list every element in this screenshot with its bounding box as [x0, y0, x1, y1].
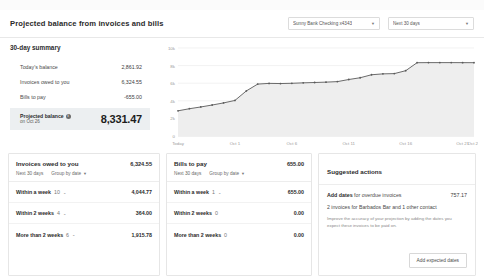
info-icon[interactable]: i [66, 114, 71, 119]
suggested-action-fine-print: Improve the accuracy of your projection … [327, 216, 457, 229]
bucket-row[interactable]: Within 2 weeks 4 ⌄ 364.00 [9, 203, 159, 224]
svg-text:Oct 11: Oct 11 [342, 141, 355, 146]
suggested-action-amount: 757.17 [451, 192, 468, 198]
card-header: Bills to pay 655.00 Next 30 days Group b… [167, 154, 311, 182]
caret-down-icon: ▼ [83, 172, 87, 176]
bucket-count: 6 [66, 232, 69, 238]
suggested-action-link[interactable]: Add dates [327, 192, 353, 198]
svg-text:0: 0 [173, 134, 176, 139]
card-subcontrols: Next 30 days Group by date ▼ [174, 171, 304, 176]
bucket-row: Within 2 weeks 0 0.00 [167, 203, 311, 224]
suggested-action-text: for overdue invoices [354, 192, 401, 198]
card-bills-to-pay: Bills to pay 655.00 Next 30 days Group b… [166, 153, 312, 276]
chevron-down-icon[interactable]: ⌄ [63, 190, 66, 195]
bucket-row[interactable]: Within a week 1 ⌄ 655.00 [167, 182, 311, 203]
projected-balance-amount: 8,331.47 [101, 113, 142, 125]
page-title: Projected balance from invoices and bill… [10, 19, 164, 28]
svg-text:Oct 16: Oct 16 [399, 141, 412, 146]
card-total: 655.00 [287, 161, 304, 167]
projected-balance-date: on Oct 26 [20, 119, 71, 125]
bucket-amount: 1,915.78 [131, 232, 152, 238]
summary-row-amount: 6,324.55 [121, 79, 142, 85]
summary-row-invoices-owed: Invoices owed to you 6,324.55 [10, 74, 150, 89]
bucket-label: Within 2 weeks [174, 210, 212, 216]
card-total: 6,324.55 [130, 161, 152, 167]
bucket-amount: 4,044.77 [131, 189, 152, 195]
svg-text:Today: Today [172, 141, 185, 146]
projected-balance-widget: Projected balance from invoices and bill… [0, 0, 484, 276]
bucket-row[interactable]: More than 2 weeks 6 ⌄ 1,915.78 [9, 224, 159, 245]
bucket-label: Within 2 weeks [16, 210, 54, 216]
projected-balance-labels: Projected balance i on Oct 26 [20, 113, 71, 125]
date-range-select[interactable]: Next 30 days ▼ [388, 17, 474, 30]
summary-row-amount: 2,861.92 [121, 64, 142, 70]
svg-text:8k: 8k [170, 64, 175, 69]
summary-row-label: Today's balance [20, 64, 58, 70]
caret-down-icon: ▼ [371, 22, 375, 26]
svg-text:4k: 4k [170, 99, 175, 104]
summary-panel: 30-day summary Today's balance 2,861.92 … [0, 38, 160, 148]
summary-row-bills-to-pay: Bills to pay -655.00 [10, 89, 150, 104]
group-by-date-label: Group by date [209, 171, 239, 176]
group-by-date-select[interactable]: Group by date ▼ [209, 171, 245, 176]
date-range-select-label: Next 30 days [393, 21, 420, 26]
svg-text:Oct 26: Oct 26 [468, 141, 478, 146]
account-select-label: Sunny Bank Checking x4343 [293, 21, 352, 26]
svg-text:6k: 6k [170, 81, 175, 86]
projected-balance-row: Projected balance i on Oct 26 8,331.47 [10, 108, 150, 130]
suggested-action-detail: 2 invoices for Barbados Bar and 1 other … [327, 204, 467, 210]
bucket-amount: 0.00 [294, 210, 304, 216]
bucket-row[interactable]: Within a week 10 ⌄ 4,044.77 [9, 182, 159, 203]
bucket-label: Within a week [174, 189, 209, 195]
chevron-down-icon[interactable]: ⌄ [63, 211, 66, 216]
card-range-label: Next 30 days [16, 171, 43, 176]
caret-down-icon: ▼ [241, 172, 245, 176]
bucket-count: 1 [212, 189, 215, 195]
bucket-amount: 655.00 [288, 189, 304, 195]
card-title: Bills to pay [174, 160, 207, 167]
projection-chart-svg: 10k8k6k4k2k0TodayOct 1Oct 6Oct 11Oct 16O… [162, 44, 478, 148]
chevron-down-icon[interactable]: ⌄ [72, 232, 75, 237]
main-row: 30-day summary Today's balance 2,861.92 … [0, 38, 484, 148]
group-by-date-label: Group by date [51, 171, 81, 176]
widget-header: Projected balance from invoices and bill… [0, 10, 484, 38]
summary-title: 30-day summary [10, 44, 150, 51]
svg-text:10k: 10k [168, 46, 176, 51]
bucket-amount: 364.00 [136, 210, 152, 216]
add-expected-dates-button[interactable]: Add expected dates [409, 253, 467, 268]
card-header: Suggested actions [319, 154, 475, 185]
bucket-label: More than 2 weeks [174, 232, 221, 238]
caret-down-icon: ▼ [465, 22, 469, 26]
card-title: Suggested actions [327, 168, 382, 175]
svg-text:Oct 1: Oct 1 [230, 141, 241, 146]
cards-row: Invoices owed to you 6,324.55 Next 30 da… [0, 150, 484, 276]
bucket-count: 0 [215, 210, 218, 216]
projection-chart: 10k8k6k4k2k0TodayOct 1Oct 6Oct 11Oct 16O… [160, 38, 484, 148]
card-header-top: Invoices owed to you 6,324.55 [16, 160, 152, 167]
bucket-amount: 0.00 [294, 232, 304, 238]
suggested-body: Add dates for overdue invoices 757.17 2 … [319, 185, 475, 275]
bucket-label: More than 2 weeks [16, 232, 63, 238]
bucket-count: 4 [57, 210, 60, 216]
bucket-row: More than 2 weeks 0 0.00 [167, 224, 311, 245]
svg-text:Oct 6: Oct 6 [287, 141, 298, 146]
bucket-count: 0 [224, 232, 227, 238]
chevron-down-icon[interactable]: ⌄ [218, 190, 221, 195]
svg-text:2k: 2k [170, 116, 175, 121]
card-header: Invoices owed to you 6,324.55 Next 30 da… [9, 154, 159, 182]
summary-row-amount: -655.00 [124, 94, 142, 100]
suggested-action-line: Add dates for overdue invoices 757.17 [327, 192, 467, 198]
card-invoices-owed: Invoices owed to you 6,324.55 Next 30 da… [8, 153, 160, 276]
bucket-count: 10 [54, 189, 60, 195]
account-select[interactable]: Sunny Bank Checking x4343 ▼ [288, 17, 380, 30]
suggested-button-row: Add expected dates [327, 253, 467, 275]
bucket-label: Within a week [16, 189, 51, 195]
summary-row-label: Bills to pay [20, 94, 46, 100]
card-header-top: Bills to pay 655.00 [174, 160, 304, 167]
card-suggested-actions: Suggested actions Add dates for overdue … [318, 153, 476, 276]
card-subcontrols: Next 30 days Group by date ▼ [16, 171, 152, 176]
summary-row-todays-balance: Today's balance 2,861.92 [10, 59, 150, 74]
group-by-date-select[interactable]: Group by date ▼ [51, 171, 87, 176]
header-controls: Sunny Bank Checking x4343 ▼ Next 30 days… [288, 17, 474, 30]
card-range-label: Next 30 days [174, 171, 201, 176]
